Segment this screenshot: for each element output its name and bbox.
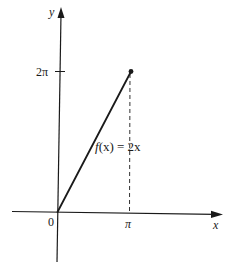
y-axis-label: y [48,5,55,19]
x-tick-label-pi: π [125,217,132,231]
x-axis-label: x [212,218,219,232]
function-graph: y 2π 0 π x f(x) = 2x [0,0,229,274]
x-axis-arrow-icon [211,211,223,218]
y-tick-label-2pi: 2π [36,65,48,79]
function-label: f(x) = 2x [95,139,141,154]
origin-label: 0 [48,215,54,229]
x-axis [12,211,223,218]
y-axis-arrow-icon [58,7,65,18]
endpoint-dot [129,69,134,74]
function-label-rest: (x) = 2x [99,139,141,154]
y-axis [57,7,65,262]
